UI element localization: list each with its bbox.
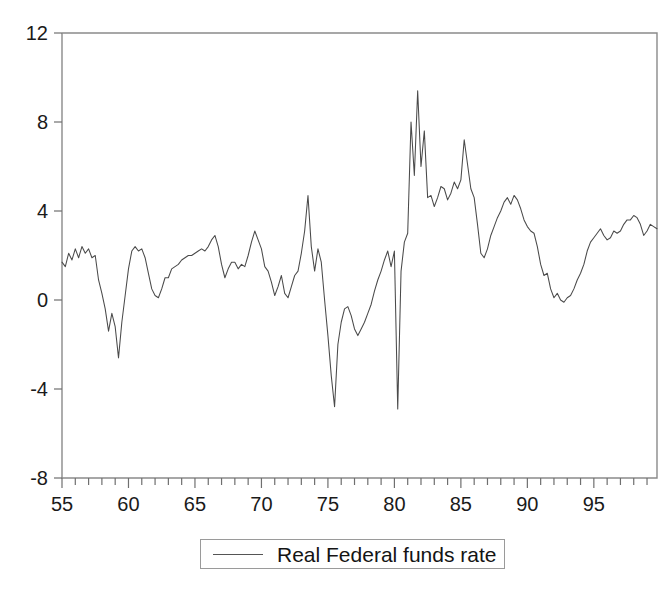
line-chart-plot: 12840-4-8556065707580859095 bbox=[0, 0, 671, 604]
x-tick-label: 60 bbox=[117, 493, 139, 515]
x-tick-label: 85 bbox=[450, 493, 472, 515]
x-tick-label: 95 bbox=[583, 493, 605, 515]
chart-legend: Real Federal funds rate bbox=[200, 539, 505, 569]
x-tick-label: 55 bbox=[51, 493, 73, 515]
chart-figure: 12840-4-8556065707580859095 Real Federal… bbox=[0, 0, 671, 604]
x-tick-label: 70 bbox=[250, 493, 272, 515]
x-tick-label: 80 bbox=[383, 493, 405, 515]
y-tick-label: 12 bbox=[26, 22, 48, 44]
series-line-0 bbox=[62, 91, 657, 409]
plot-frame bbox=[62, 33, 657, 478]
legend-label: Real Federal funds rate bbox=[277, 544, 496, 565]
y-tick-label: 0 bbox=[37, 289, 48, 311]
x-tick-label: 65 bbox=[184, 493, 206, 515]
y-tick-label: 8 bbox=[37, 111, 48, 133]
line-swatch bbox=[213, 554, 263, 555]
y-tick-label: -4 bbox=[30, 378, 48, 400]
x-tick-label: 75 bbox=[317, 493, 339, 515]
y-tick-label: 4 bbox=[37, 200, 48, 222]
y-tick-label: -8 bbox=[30, 467, 48, 489]
x-tick-label: 90 bbox=[516, 493, 538, 515]
